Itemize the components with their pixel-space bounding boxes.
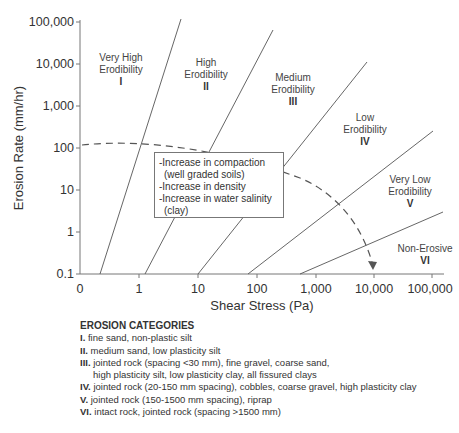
legend-item: VI. intact rock, jointed rock (spacing >…: [80, 406, 417, 418]
y-axis-title: Erosion Rate (mm/hr): [11, 86, 26, 210]
x-tick-label: 10,000: [355, 282, 393, 296]
region-numeral-1: I: [120, 76, 123, 87]
y-tick-label: 100: [53, 141, 74, 155]
region-label-5: Very Low: [389, 174, 431, 185]
legend-text: jointed rock (spacing <30 mm), fine grav…: [91, 357, 330, 368]
legend-item-continued: high plasticity silt, low plasticity cla…: [80, 369, 417, 381]
x-tick-label: 1: [136, 282, 143, 296]
region-numeral-6: VI: [420, 255, 430, 266]
y-tick-label: 10: [60, 183, 74, 197]
arrow-head-icon: [368, 261, 377, 270]
region-numeral-5: V: [407, 198, 414, 209]
legend-text: fine sand, non-plastic silt: [85, 332, 192, 343]
legend-numeral: VI.: [80, 406, 92, 417]
region-label-4: Erodibility: [343, 124, 386, 135]
legend-numeral: II.: [80, 345, 88, 356]
region-label-1: Erodibility: [99, 64, 142, 75]
legend-item: II. medium sand, low plasticity silt: [80, 345, 417, 357]
region-label-3: Erodibility: [271, 84, 314, 95]
region-label-6: Non-Erosive: [397, 243, 452, 254]
region-label-4: Low: [356, 112, 375, 123]
x-tick-label: 0: [77, 282, 84, 296]
y-tick-label: 0.1: [57, 267, 74, 281]
region-numeral-4: IV: [360, 136, 370, 147]
boundary-lines: [100, 19, 443, 274]
legend-text: jointed rock (150-1500 mm spacing), ripr…: [88, 394, 272, 405]
region-numeral-3: III: [289, 96, 298, 107]
legend-item: V. jointed rock (150-1500 mm spacing), r…: [80, 394, 417, 406]
region-label-1: Very High: [99, 52, 142, 63]
region-label-2: Erodibility: [184, 69, 227, 80]
legend-text: intact rock, jointed rock (spacing >1500…: [92, 406, 281, 417]
legend-text: jointed rock (20-150 mm spacing), cobble…: [91, 381, 417, 392]
legend-title: EROSION CATEGORIES: [80, 320, 417, 332]
x-tick-label: 1,000: [300, 282, 331, 296]
legend-text: medium sand, low plasticity silt: [88, 345, 221, 356]
annotation-line: (well graded soils): [159, 169, 279, 181]
region-numeral-2: II: [203, 81, 209, 92]
x-ticks: [139, 274, 432, 278]
y-tick-label: 100,000: [29, 15, 74, 29]
legend-numeral: IV.: [80, 381, 91, 392]
y-ticks: [76, 22, 80, 274]
y-tick-label: 10,000: [36, 57, 74, 71]
annotation-line: -Increase in density: [159, 181, 279, 193]
x-tick-label: 100,000: [407, 282, 452, 296]
y-tick-label: 1: [67, 225, 74, 239]
region-label-5: Erodibility: [388, 186, 431, 197]
x-axis-title: Shear Stress (Pa): [210, 298, 313, 313]
legend-item: III. jointed rock (spacing <30 mm), fine…: [80, 357, 417, 369]
annotation-line: -Increase in water salinity: [159, 193, 279, 205]
x-tick-label: 10: [191, 282, 205, 296]
region-label-3: Medium: [275, 72, 311, 83]
erosion-categories-legend: EROSION CATEGORIES I. fine sand, non-pla…: [80, 320, 417, 418]
legend-numeral: III.: [80, 357, 91, 368]
annotation-line: -Increase in compaction: [159, 157, 279, 169]
annotation-box: -Increase in compaction (well graded soi…: [154, 152, 284, 218]
y-tick-label: 1,000: [43, 99, 74, 113]
legend-item: I. fine sand, non-plastic silt: [80, 332, 417, 344]
legend-item: IV. jointed rock (20-150 mm spacing), co…: [80, 381, 417, 393]
annotation-line: (clay): [159, 205, 279, 217]
x-tick-label: 100: [247, 282, 268, 296]
region-label-2: High: [196, 57, 217, 68]
legend-numeral: V.: [80, 394, 88, 405]
